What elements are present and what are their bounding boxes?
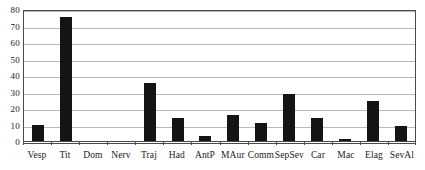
x-axis-label: Vesp bbox=[23, 147, 51, 165]
x-axis-tick bbox=[332, 142, 360, 146]
y-axis-tick-label: 0 bbox=[15, 138, 20, 147]
bar-slot bbox=[387, 11, 415, 141]
x-axis-tick bbox=[248, 142, 276, 146]
bar bbox=[144, 83, 156, 141]
x-axis-label: MAur bbox=[219, 147, 247, 165]
x-axis-label: Comm bbox=[247, 147, 275, 165]
x-axis-label: SevAl bbox=[388, 147, 416, 165]
bar bbox=[199, 136, 211, 141]
y-axis-tick-label: 80 bbox=[11, 6, 20, 15]
bar-slot bbox=[108, 11, 136, 141]
bar-slot bbox=[331, 11, 359, 141]
bar bbox=[395, 126, 407, 141]
bar-slot bbox=[136, 11, 164, 141]
x-axis-ticks bbox=[23, 142, 416, 146]
x-axis-tick bbox=[23, 142, 51, 146]
y-axis-tick-label: 40 bbox=[11, 72, 20, 81]
bar-chart: 01020304050607080 VespTitDomNervTrajHadA… bbox=[0, 0, 425, 170]
bar-slot bbox=[52, 11, 80, 141]
x-axis-label: Had bbox=[163, 147, 191, 165]
bar bbox=[339, 139, 351, 141]
x-axis-label: Mac bbox=[332, 147, 360, 165]
x-axis-tick bbox=[304, 142, 332, 146]
y-axis-tick-label: 50 bbox=[11, 55, 20, 64]
y-axis-tick-label: 60 bbox=[11, 39, 20, 48]
x-axis-label: Nerv bbox=[107, 147, 135, 165]
bar-slot bbox=[247, 11, 275, 141]
x-axis-tick bbox=[79, 142, 107, 146]
bar-slot bbox=[275, 11, 303, 141]
bar-slot bbox=[24, 11, 52, 141]
x-axis-tick bbox=[107, 142, 135, 146]
y-axis-tick-label: 30 bbox=[11, 88, 20, 97]
bar bbox=[227, 115, 239, 141]
bar bbox=[255, 123, 267, 141]
x-axis-label: Traj bbox=[135, 147, 163, 165]
bar-slot bbox=[164, 11, 192, 141]
bar bbox=[32, 125, 44, 141]
x-axis-labels: VespTitDomNervTrajHadAntPMAurCommSepSevC… bbox=[23, 147, 416, 165]
bar bbox=[367, 101, 379, 141]
x-axis-label: AntP bbox=[191, 147, 219, 165]
bar-slot bbox=[192, 11, 220, 141]
bar-slot bbox=[359, 11, 387, 141]
x-axis-label: SepSev bbox=[275, 147, 304, 165]
x-axis-tick bbox=[360, 142, 388, 146]
bar-slot bbox=[219, 11, 247, 141]
x-axis-tick bbox=[163, 142, 191, 146]
x-axis-tick bbox=[135, 142, 163, 146]
bar bbox=[60, 17, 72, 141]
x-axis-tick bbox=[191, 142, 219, 146]
x-axis-tick bbox=[388, 142, 416, 146]
y-axis-tick-label: 10 bbox=[11, 121, 20, 130]
x-axis-label: Car bbox=[304, 147, 332, 165]
x-axis-tick bbox=[276, 142, 304, 146]
bar bbox=[283, 94, 295, 141]
x-axis-label: Dom bbox=[79, 147, 107, 165]
plot-area bbox=[23, 10, 416, 142]
y-axis-tick-label: 20 bbox=[11, 105, 20, 114]
bar bbox=[172, 118, 184, 141]
x-axis-label: Tit bbox=[51, 147, 79, 165]
x-axis-tick bbox=[51, 142, 79, 146]
bars-group bbox=[24, 11, 415, 141]
y-axis: 01020304050607080 bbox=[0, 10, 22, 142]
bar bbox=[311, 118, 323, 141]
x-axis-label: Elag bbox=[360, 147, 388, 165]
bar-slot bbox=[80, 11, 108, 141]
x-axis-tick bbox=[220, 142, 248, 146]
y-axis-tick-label: 70 bbox=[11, 22, 20, 31]
bar-slot bbox=[303, 11, 331, 141]
